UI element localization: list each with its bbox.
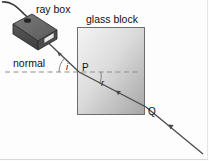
refraction-diagram: ray box glass block normal P Q i r xyxy=(0,0,209,161)
label-glass-block: glass block xyxy=(86,13,138,25)
label-point-q: Q xyxy=(148,106,156,117)
label-point-p: P xyxy=(82,62,89,73)
angle-i-arc xyxy=(59,58,65,72)
knob-icon xyxy=(24,18,31,23)
label-normal: normal xyxy=(13,57,45,69)
label-ray-box: ray box xyxy=(36,3,70,15)
label-angle-refraction: r xyxy=(101,78,104,88)
label-angle-incidence: i xyxy=(66,62,68,72)
